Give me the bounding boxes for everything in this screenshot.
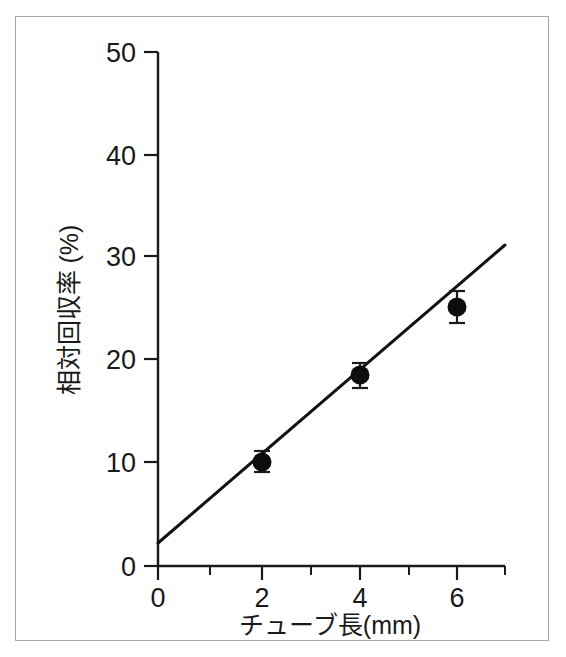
y-tick-label-40: 40: [106, 141, 136, 171]
regression-line: [158, 245, 505, 543]
y-tick-label-10: 10: [106, 448, 136, 478]
data-point-group-1: [253, 451, 272, 472]
data-marker-3: [448, 298, 467, 317]
scatter-chart: 50 40 30 20 10 0 0 2 4 6: [0, 0, 566, 657]
x-axis-minor-ticks: [210, 566, 505, 575]
x-axis-ticks: [158, 566, 457, 580]
x-tick-label-6: 6: [449, 583, 464, 613]
figure-root: 50 40 30 20 10 0 0 2 4 6: [0, 0, 566, 657]
x-tick-label-4: 4: [352, 583, 367, 613]
y-tick-label-20: 20: [106, 345, 136, 375]
y-tick-label-0: 0: [121, 552, 136, 582]
data-point-group-2: [351, 363, 370, 388]
data-marker-2: [351, 366, 370, 385]
x-axis-tick-labels: 0 2 4 6: [150, 583, 464, 613]
x-tick-label-0: 0: [150, 583, 165, 613]
data-marker-1: [253, 453, 272, 472]
y-tick-label-50: 50: [106, 38, 136, 68]
y-axis-ticks: [144, 52, 158, 566]
data-point-group-3: [448, 291, 467, 323]
x-tick-label-2: 2: [254, 583, 269, 613]
y-tick-label-30: 30: [106, 242, 136, 272]
x-axis-title: チューブ長(mm): [239, 611, 421, 639]
y-axis-tick-labels: 50 40 30 20 10 0: [106, 38, 136, 582]
y-axis-title: 相対回収率 (%): [55, 225, 83, 396]
